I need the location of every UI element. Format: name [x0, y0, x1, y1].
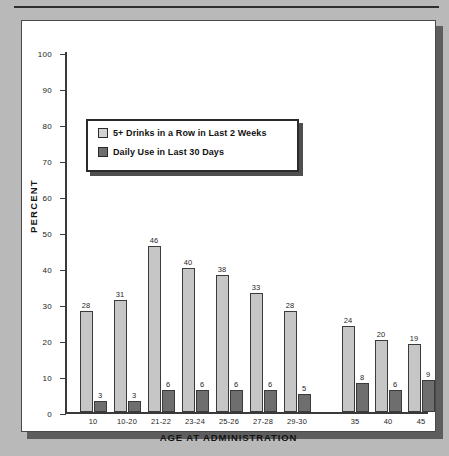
- bar-value-label: 28: [82, 301, 90, 310]
- x-axis-category-label: 23-24: [185, 417, 205, 426]
- bar-value-label: 38: [218, 265, 226, 274]
- bar: 6: [264, 390, 277, 412]
- bar-group: 46621-22: [148, 52, 175, 412]
- bar-value-label: 6: [234, 380, 238, 389]
- bar-value-label: 6: [393, 380, 397, 389]
- bar: 40: [182, 268, 195, 412]
- y-axis-tick: 30: [60, 306, 66, 307]
- bar-value-label: 8: [360, 373, 364, 382]
- bar: 38: [216, 275, 229, 412]
- y-axis-tick-label: 30: [43, 302, 53, 311]
- y-axis-line: [65, 52, 67, 414]
- bar-value-label: 28: [286, 301, 294, 310]
- bar: 6: [389, 390, 402, 412]
- bar-group: 40623-24: [182, 52, 209, 412]
- legend-item-label: Daily Use in Last 30 Days: [113, 147, 224, 157]
- bar-group: 33627-28: [250, 52, 277, 412]
- bar: 19: [408, 344, 421, 412]
- y-axis-tick: 70: [60, 162, 66, 163]
- page-top-rule: [14, 6, 439, 8]
- y-axis-title: PERCENT: [28, 179, 39, 233]
- bar-value-label: 40: [184, 258, 192, 267]
- x-axis-category-label: 10-20: [117, 417, 137, 426]
- bar: 20: [375, 340, 388, 412]
- legend-item-label: 5+ Drinks in a Row in Last 2 Weeks: [113, 128, 267, 138]
- bar: 28: [80, 311, 93, 412]
- bar-value-label: 31: [116, 290, 124, 299]
- bar: 9: [422, 380, 435, 412]
- legend-swatch-icon: [98, 128, 108, 138]
- bar: 5: [298, 394, 311, 412]
- figure-panel: PERCENT AGE AT ADMINISTRATION 1009080706…: [21, 20, 436, 432]
- scanned-page: PERCENT AGE AT ADMINISTRATION 1009080706…: [0, 0, 449, 456]
- y-axis-tick-label: 10: [43, 374, 53, 383]
- plot-area: 1009080706050403020100 2831031310-204662…: [65, 52, 428, 414]
- y-axis-tick: 80: [60, 126, 66, 127]
- y-axis-tick: 40: [60, 270, 66, 271]
- x-axis-category-label: 10: [89, 417, 98, 426]
- bar-value-label: 3: [98, 391, 102, 400]
- bar-group: 31310-20: [114, 52, 141, 412]
- bar-value-label: 33: [252, 283, 260, 292]
- bar: 46: [148, 246, 161, 412]
- bar: 28: [284, 311, 297, 412]
- x-axis-title: AGE AT ADMINISTRATION: [22, 432, 435, 443]
- x-axis-line: [65, 412, 428, 414]
- y-axis-tick-label: 40: [43, 266, 53, 275]
- bar-group: 24835: [342, 52, 369, 412]
- bar: 31: [114, 300, 127, 412]
- bar-value-label: 9: [426, 370, 430, 379]
- bar: 6: [230, 390, 243, 412]
- x-axis-category-label: 21-22: [151, 417, 171, 426]
- bar-group: 20640: [375, 52, 402, 412]
- chart-legend: 5+ Drinks in a Row in Last 2 Weeks Daily…: [86, 119, 299, 172]
- x-axis-category-label: 45: [417, 417, 426, 426]
- bar-group: 28529-30: [284, 52, 311, 412]
- y-axis-tick-label: 80: [43, 122, 53, 131]
- bar: 3: [128, 401, 141, 412]
- legend-swatch-icon: [98, 147, 108, 157]
- y-axis-tick: 10: [60, 378, 66, 379]
- bar: 6: [162, 390, 175, 412]
- y-axis-tick-label: 70: [43, 158, 53, 167]
- bar-group: 28310: [80, 52, 107, 412]
- x-axis-category-label: 29-30: [287, 417, 307, 426]
- y-axis-tick: 0: [60, 414, 66, 415]
- bar: 6: [196, 390, 209, 412]
- bar-value-label: 6: [200, 380, 204, 389]
- bar: 33: [250, 293, 263, 412]
- bar: 24: [342, 326, 355, 412]
- bar-value-label: 6: [166, 380, 170, 389]
- x-axis-category-label: 35: [351, 417, 360, 426]
- bar-group: 19945: [408, 52, 435, 412]
- bar-value-label: 19: [410, 334, 418, 343]
- legend-item: Daily Use in Last 30 Days: [98, 147, 297, 157]
- bar-group: 38625-26: [216, 52, 243, 412]
- y-axis-tick: 50: [60, 234, 66, 235]
- bar-value-label: 24: [344, 316, 352, 325]
- x-axis-category-label: 40: [384, 417, 393, 426]
- y-axis-tick-label: 60: [43, 194, 53, 203]
- y-axis-tick: 60: [60, 198, 66, 199]
- bar: 8: [356, 383, 369, 412]
- bar-value-label: 3: [132, 391, 136, 400]
- y-axis-tick-label: 0: [47, 410, 52, 419]
- x-axis-category-label: 27-28: [253, 417, 273, 426]
- y-axis-tick: 100: [60, 54, 66, 55]
- legend-item: 5+ Drinks in a Row in Last 2 Weeks: [98, 128, 297, 138]
- bar-value-label: 46: [150, 236, 158, 245]
- bar: 3: [94, 401, 107, 412]
- y-axis-tick-label: 90: [43, 86, 53, 95]
- y-axis-tick-label: 20: [43, 338, 53, 347]
- y-axis-tick-label: 100: [38, 50, 52, 59]
- y-axis-tick-label: 50: [43, 230, 53, 239]
- bar-value-label: 6: [268, 380, 272, 389]
- x-axis-category-label: 25-26: [219, 417, 239, 426]
- y-axis-tick: 90: [60, 90, 66, 91]
- bar-value-label: 20: [377, 330, 385, 339]
- bar-value-label: 5: [302, 384, 306, 393]
- y-axis-tick: 20: [60, 342, 66, 343]
